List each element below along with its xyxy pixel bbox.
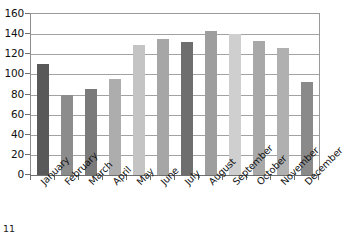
y-axis-tick-label: 60 <box>11 109 24 120</box>
y-axis-tick-label: 40 <box>11 129 24 140</box>
y-axis-tick-mark <box>25 154 30 155</box>
y-axis-tick-label: 140 <box>5 28 24 39</box>
y-axis-tick-mark <box>25 114 30 115</box>
chart-plot-area <box>30 13 320 175</box>
y-axis-tick-mark <box>25 73 30 74</box>
y-axis-tick-mark <box>25 33 30 34</box>
page-number: 11 <box>3 224 15 234</box>
bar <box>157 39 169 175</box>
bar <box>133 45 145 175</box>
y-axis-tick-mark <box>25 134 30 135</box>
y-axis-tick-label: 120 <box>5 48 24 59</box>
y-axis-tick-mark <box>25 174 30 175</box>
y-axis-tick-label: 20 <box>11 149 24 160</box>
bar <box>181 42 193 175</box>
chart-bars <box>31 14 319 175</box>
x-axis-tick-labels: JanuaryFebruaryMarchAprilMayJuneJulyAugu… <box>0 174 321 238</box>
bar <box>205 31 217 175</box>
y-axis-tick-mark <box>25 94 30 95</box>
y-axis-tick-label: 160 <box>5 8 24 19</box>
bar <box>229 34 241 175</box>
bar <box>109 79 121 175</box>
y-axis-tick-mark <box>25 13 30 14</box>
y-axis-tick-label: 80 <box>11 89 24 100</box>
y-axis-tick-label: 100 <box>5 68 24 79</box>
bar <box>37 64 49 175</box>
y-axis-tick-mark <box>25 53 30 54</box>
